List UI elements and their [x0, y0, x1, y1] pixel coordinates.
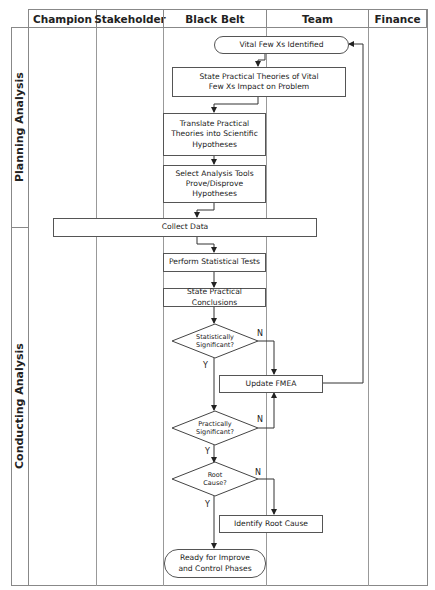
decision-practically-significant: Practically Significant?	[190, 417, 240, 439]
decision-statistically-significant: Statistically Significant?	[190, 330, 240, 352]
process-perform-statistical-tests: Perform Statistical Tests	[163, 253, 266, 272]
process-identify-root-cause: Identify Root Cause	[219, 515, 323, 533]
terminal-ready-improve-control: Ready for Improve and Control Phases	[164, 549, 266, 578]
process-collect-data: Collect Data	[53, 218, 317, 237]
label-yes-stat: Y	[203, 361, 208, 370]
terminal-vital-few-xs: Vital Few Xs Identified	[214, 36, 349, 54]
label-no-root: N	[255, 468, 261, 477]
process-select-analysis-tools: Select Analysis Tools Prove/Disprove Hyp…	[163, 165, 266, 203]
process-update-fmea: Update FMEA	[219, 375, 323, 393]
label-yes-prac: Y	[205, 447, 210, 456]
process-translate-hypotheses: Translate Practical Theories into Scient…	[163, 113, 266, 156]
decision-root-cause: Root Cause?	[195, 468, 235, 490]
label-no-stat: N	[257, 329, 263, 338]
label-yes-root: Y	[205, 500, 210, 509]
label-no-prac: N	[257, 415, 263, 424]
process-state-theories: State Practical Theories of Vital Few Xs…	[172, 67, 346, 97]
process-state-conclusions: State Practical Conclusions	[163, 288, 266, 307]
